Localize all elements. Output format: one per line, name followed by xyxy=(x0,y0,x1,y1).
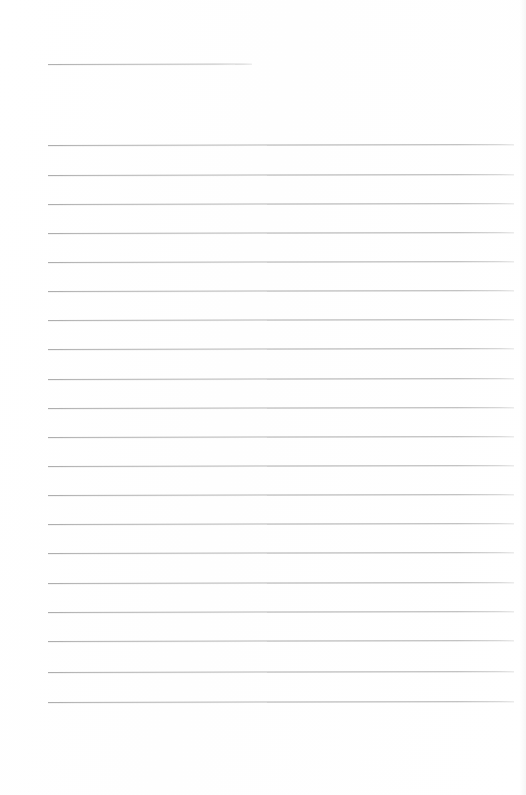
scan-edge-right xyxy=(520,0,526,795)
ruled-line xyxy=(48,232,514,234)
ruled-line xyxy=(48,144,514,146)
ruled-line xyxy=(48,174,514,176)
ruled-line xyxy=(48,640,514,642)
ruled-line xyxy=(48,378,514,380)
ruled-line xyxy=(48,436,514,438)
ruled-line xyxy=(48,290,514,292)
ruled-line xyxy=(48,465,514,467)
ruled-line xyxy=(48,203,514,205)
ruled-line xyxy=(48,671,514,673)
ruled-line xyxy=(48,552,514,554)
ruled-line xyxy=(48,261,514,263)
ruled-line xyxy=(48,494,514,496)
ruled-line xyxy=(48,582,514,584)
ruled-line xyxy=(48,523,514,525)
header-underline-rule xyxy=(48,63,252,65)
ruled-line xyxy=(48,319,514,321)
ruled-line xyxy=(48,407,514,409)
scanned-page xyxy=(0,0,526,795)
ruled-line xyxy=(48,701,514,703)
ruled-line xyxy=(48,348,514,350)
paper-surface xyxy=(0,0,526,795)
ruled-line xyxy=(48,611,514,613)
